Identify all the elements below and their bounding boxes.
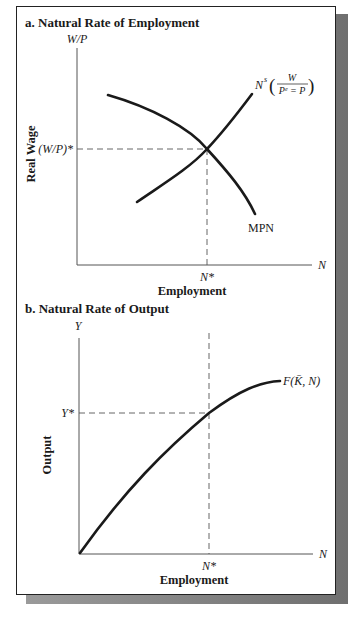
- panel-b-y-axis-title: Output: [40, 435, 54, 475]
- labor-supply-curve: [137, 94, 252, 202]
- panel-a-equilibrium-wage-label: (W/P)*: [38, 142, 73, 156]
- panel-b-equilibrium-employment-label: N*: [201, 559, 216, 573]
- natural-rate-diagram: a. Natural Rate of Employment W/P N Real…: [0, 0, 363, 620]
- panel-a: a. Natural Rate of Employment W/P N Real…: [24, 15, 327, 298]
- panel-a-equilibrium-employment-label: N*: [199, 270, 214, 284]
- panel-a-x-axis-title: Employment: [158, 284, 228, 298]
- labor-supply-label-base: N: [254, 78, 264, 92]
- panel-a-x-axis-var: N: [317, 258, 327, 272]
- panel-a-y-axis-var: W/P: [67, 32, 88, 46]
- panel-b-x-axis-title: Employment: [160, 573, 230, 587]
- panel-a-y-axis-title: Real Wage: [24, 125, 38, 183]
- panel-b-x-axis-var: N: [318, 547, 328, 561]
- panel-a-title: a. Natural Rate of Employment: [25, 15, 200, 30]
- panel-b: b. Natural Rate of Output Y N Output Y* …: [25, 301, 328, 587]
- labor-supply-label-denominator: Pᵉ = P: [278, 85, 306, 96]
- production-function-label: F(K̄, N): [282, 374, 320, 388]
- labor-supply-open-paren: (: [269, 75, 275, 97]
- labor-supply-label-numerator: W: [288, 72, 298, 83]
- labor-supply-label: N s ( W Pᵉ = P ): [254, 72, 314, 97]
- panel-b-title: b. Natural Rate of Output: [25, 301, 170, 316]
- panel-b-equilibrium-output-label: Y*: [61, 406, 74, 420]
- mpn-curve-label: MPN: [248, 221, 274, 235]
- production-function-curve: [80, 381, 280, 553]
- panel-b-y-axis-var: Y: [75, 319, 83, 333]
- labor-supply-label-superscript: s: [264, 75, 267, 84]
- labor-supply-close-paren: ): [308, 75, 314, 97]
- mpn-curve: [108, 95, 255, 214]
